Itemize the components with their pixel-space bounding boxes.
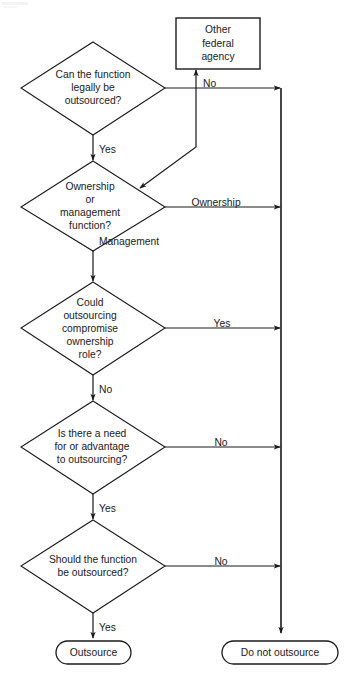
decision-3-line-4: ownership bbox=[67, 336, 114, 347]
node-decision-could-outsourcing-compromise-ownership-role[interactable]: Could outsourcing compromise ownership r… bbox=[21, 282, 165, 375]
edge-label-d2-management: Management bbox=[99, 236, 159, 247]
edge-label-d3-yes: Yes bbox=[214, 318, 231, 329]
node-decision-is-there-a-need-or-advantage-to-outsourcing[interactable]: Is there a need for or advantage to outs… bbox=[21, 401, 165, 494]
edge-label-d5-no: No bbox=[214, 556, 227, 567]
flowchart-canvas: Other federal agency Can the function le… bbox=[0, 0, 356, 687]
other-agency-line-1: Other bbox=[205, 24, 231, 35]
edge-label-d1-no: No bbox=[203, 78, 216, 89]
node-decision-can-function-legally-be-outsourced[interactable]: Can the function legally be outsourced? bbox=[21, 42, 165, 135]
decision-3-line-5: role? bbox=[79, 349, 102, 360]
edge-label-d5-yes: Yes bbox=[99, 622, 116, 633]
decision-1-line-2: legally be bbox=[71, 82, 115, 93]
decision-2-line-1: Ownership bbox=[65, 181, 114, 192]
edge-label-d4-yes: Yes bbox=[99, 503, 116, 514]
other-agency-line-2: federal bbox=[202, 38, 233, 49]
edge-label-d2-ownership: Ownership bbox=[191, 197, 240, 208]
decision-4-line-3: to outsourcing? bbox=[57, 454, 128, 465]
decision-1-line-1: Can the function bbox=[56, 69, 131, 80]
edge-label-d1-yes: Yes bbox=[99, 144, 116, 155]
node-terminal-do-not-outsource[interactable]: Do not outsource bbox=[222, 641, 338, 664]
decision-1-line-3: outsourced? bbox=[65, 95, 122, 106]
edge-label-d3-no: No bbox=[99, 384, 112, 395]
node-terminal-outsource[interactable]: Outsource bbox=[56, 641, 131, 664]
decision-2-line-2: or bbox=[85, 194, 95, 205]
node-other-federal-agency[interactable]: Other federal agency bbox=[176, 18, 260, 69]
decision-5-line-2: be outsourced? bbox=[58, 567, 129, 578]
decision-4-line-2: for or advantage bbox=[55, 441, 130, 452]
flowchart-svg: Other federal agency Can the function le… bbox=[0, 0, 356, 687]
edge-other-agency-return bbox=[140, 88, 196, 188]
decision-2-line-3: management bbox=[60, 207, 120, 218]
decision-4-line-1: Is there a need bbox=[58, 428, 127, 439]
decision-2-line-4: function? bbox=[69, 220, 111, 231]
scan-artifact bbox=[2, 2, 28, 8]
node-decision-should-the-function-be-outsourced[interactable]: Should the function be outsourced? bbox=[21, 520, 165, 613]
edge-label-d4-no: No bbox=[214, 437, 227, 448]
terminal-outsource-label: Outsource bbox=[70, 647, 118, 658]
other-agency-line-3: agency bbox=[201, 51, 235, 62]
terminal-do-not-outsource-label: Do not outsource bbox=[241, 647, 320, 658]
decision-3-line-1: Could bbox=[77, 297, 104, 308]
decision-5-line-1: Should the function bbox=[49, 554, 137, 565]
decision-3-line-3: compromise bbox=[62, 323, 118, 334]
decision-3-line-2: outsourcing bbox=[63, 310, 117, 321]
